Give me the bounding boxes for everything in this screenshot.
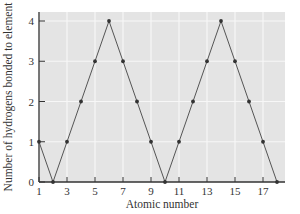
data-point-marker bbox=[205, 59, 209, 63]
data-point-marker bbox=[65, 140, 69, 144]
x-tick-label: 1 bbox=[36, 185, 42, 197]
y-tick-labels: 01234 bbox=[29, 15, 35, 188]
data-point-marker bbox=[177, 140, 181, 144]
data-point-marker bbox=[37, 140, 41, 144]
data-point-marker bbox=[191, 100, 195, 104]
x-tick-label: 5 bbox=[92, 185, 98, 197]
y-tick-label: 0 bbox=[29, 176, 35, 188]
y-axis-title: Number of hydrogens bonded to element bbox=[2, 2, 15, 192]
plot-background bbox=[39, 12, 285, 182]
hydrogen-bond-chart: 1357911131517 01234 Atomic number Number… bbox=[0, 0, 300, 214]
x-tick-label: 13 bbox=[202, 185, 214, 197]
x-tick-label: 15 bbox=[230, 185, 242, 197]
data-point-marker bbox=[121, 59, 125, 63]
y-tick-label: 1 bbox=[29, 136, 35, 148]
y-tick-label: 2 bbox=[29, 96, 35, 108]
data-point-marker bbox=[107, 19, 111, 23]
data-point-marker bbox=[93, 59, 97, 63]
data-point-marker bbox=[247, 100, 251, 104]
x-axis-title: Atomic number bbox=[126, 198, 199, 210]
data-point-marker bbox=[51, 180, 55, 184]
data-point-marker bbox=[135, 100, 139, 104]
data-point-marker bbox=[149, 140, 153, 144]
x-tick-label: 17 bbox=[258, 185, 270, 197]
x-tick-label: 7 bbox=[120, 185, 126, 197]
y-tick-label: 3 bbox=[29, 55, 35, 67]
data-point-marker bbox=[261, 140, 265, 144]
data-point-marker bbox=[219, 19, 223, 23]
x-tick-label: 11 bbox=[174, 185, 185, 197]
data-point-marker bbox=[233, 59, 237, 63]
x-tick-label: 9 bbox=[148, 185, 154, 197]
x-tick-labels: 1357911131517 bbox=[36, 185, 269, 197]
x-tick-label: 3 bbox=[64, 185, 70, 197]
data-point-marker bbox=[275, 180, 279, 184]
data-point-marker bbox=[163, 180, 167, 184]
data-point-marker bbox=[79, 100, 83, 104]
y-tick-label: 4 bbox=[29, 15, 35, 27]
